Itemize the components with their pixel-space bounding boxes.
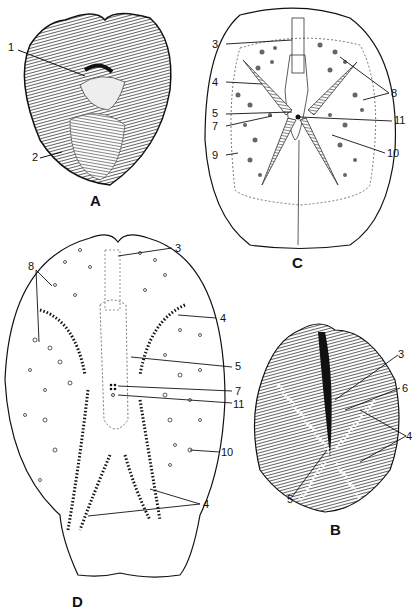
callout-a-1: 1 — [8, 42, 14, 53]
callout-c-8: 8 — [391, 88, 397, 99]
callout-c-11: 11 — [394, 115, 405, 126]
callout-b-6: 6 — [402, 383, 408, 394]
figure-d-specimen — [5, 235, 232, 577]
figure-c-specimen — [205, 8, 395, 248]
figure-a-specimen — [18, 13, 171, 185]
figure-b-specimen — [254, 324, 406, 512]
callout-c-9: 9 — [212, 150, 218, 161]
callout-c-3: 3 — [212, 39, 218, 50]
figure-label-a: A — [90, 193, 101, 208]
callout-c-7: 7 — [212, 121, 218, 132]
figure-label-b: B — [330, 522, 341, 537]
callout-d-7: 7 — [235, 386, 241, 397]
callout-d-11: 11 — [233, 399, 244, 410]
callout-b-5: 5 — [287, 494, 293, 505]
callout-d-5: 5 — [235, 361, 241, 372]
callout-d-4-lower: 4 — [203, 499, 209, 510]
callout-d-8: 8 — [28, 261, 34, 272]
illustration-canvas — [0, 0, 417, 613]
callout-c-5: 5 — [212, 108, 218, 119]
callout-c-10: 10 — [387, 148, 399, 159]
figure-label-c: C — [292, 255, 303, 270]
callout-d-10: 10 — [221, 447, 233, 458]
callout-c-4: 4 — [212, 77, 218, 88]
figure-label-d: D — [72, 594, 83, 609]
callout-d-4-upper: 4 — [220, 313, 226, 324]
callout-b-4: 4 — [406, 431, 412, 442]
callout-d-3: 3 — [175, 243, 181, 254]
callout-b-3: 3 — [398, 349, 404, 360]
callout-a-2: 2 — [32, 152, 38, 163]
